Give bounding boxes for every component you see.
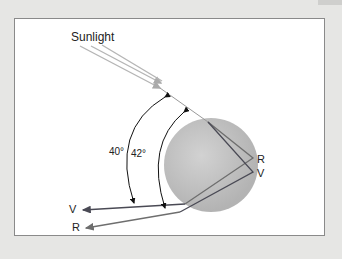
exit-rays	[83, 204, 185, 228]
red-out-label: R	[72, 221, 80, 233]
water-drop	[164, 118, 258, 212]
red-inside-label: R	[257, 153, 265, 165]
sunlight-rays	[80, 45, 208, 122]
sunlight-label: Sunlight	[71, 30, 114, 44]
angle-40-label: 40°	[109, 146, 124, 157]
violet-inside-label: V	[257, 167, 264, 179]
violet-out-label: V	[69, 203, 76, 215]
rainbow-diagram	[0, 0, 342, 259]
angle-42-label: 42°	[131, 148, 146, 159]
